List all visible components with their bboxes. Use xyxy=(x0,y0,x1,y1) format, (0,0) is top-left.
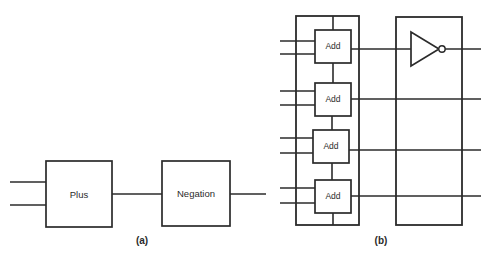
plus-block-label: Plus xyxy=(70,189,89,200)
not-gate-bubble-icon xyxy=(439,46,445,52)
add-block-3-label: Add xyxy=(323,141,338,151)
panel-b-caption: (b) xyxy=(375,235,388,246)
block-diagram-svg: Plus Negation (a) xyxy=(0,0,491,256)
negation-block-label: Negation xyxy=(177,188,215,199)
add-block-2-label: Add xyxy=(325,94,340,104)
add-block-1-label: Add xyxy=(325,41,340,51)
panel-b: Add Add Add Add (b) xyxy=(280,16,481,246)
panel-a-caption: (a) xyxy=(136,235,148,246)
not-gate-triangle-icon[interactable] xyxy=(411,32,439,66)
add-block-4-label: Add xyxy=(325,191,340,201)
panel-a: Plus Negation (a) xyxy=(10,161,266,246)
figure-container: Plus Negation (a) xyxy=(0,0,491,256)
